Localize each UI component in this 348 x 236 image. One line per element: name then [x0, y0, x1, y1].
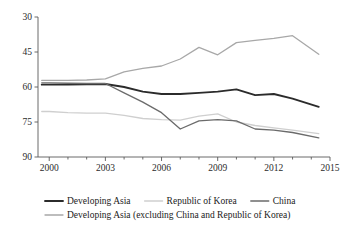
legend-label[interactable]: China — [273, 196, 296, 206]
chart-canvas: 9075604530 200020032006200920122015 Deve… — [0, 0, 348, 236]
x-tick-label: 2009 — [208, 163, 227, 173]
legend-label[interactable]: Developing Asia — [67, 196, 131, 206]
x-tick-label: 2003 — [96, 163, 115, 173]
series-line-0 — [42, 84, 319, 107]
series-line-2 — [42, 83, 319, 138]
legend-label[interactable]: Republic of Korea — [167, 196, 238, 206]
y-axis-tick-labels: 9075604530 — [23, 12, 33, 162]
legend-label[interactable]: Developing Asia (excluding China and Rep… — [67, 210, 290, 221]
x-axis-tick-labels: 200020032006200920122015 — [40, 163, 340, 173]
chart-axes — [35, 17, 331, 161]
x-tick-label: 2012 — [264, 163, 283, 173]
series-line-3 — [42, 36, 319, 81]
y-tick-label: 30 — [23, 12, 33, 22]
x-tick-label: 2006 — [152, 163, 171, 173]
data-series-group — [42, 36, 319, 138]
y-tick-label: 45 — [23, 47, 33, 57]
y-tick-label: 90 — [23, 152, 33, 162]
y-tick-label: 75 — [23, 117, 33, 127]
y-tick-label: 60 — [23, 82, 33, 92]
x-tick-label: 2000 — [40, 163, 59, 173]
line-chart: 9075604530 200020032006200920122015 Deve… — [0, 0, 348, 236]
chart-legend: Developing AsiaRepublic of KoreaChinaDev… — [45, 196, 296, 221]
x-tick-label: 2015 — [321, 163, 340, 173]
